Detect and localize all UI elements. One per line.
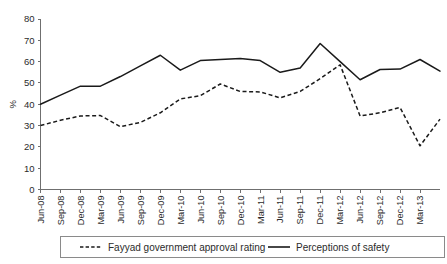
x-tick-label: Sep-09 [136, 196, 146, 226]
legend-label: Perceptions of safety [296, 242, 389, 253]
x-tick-label: Dec-09 [156, 196, 166, 226]
y-axis-title: % [7, 99, 18, 108]
y-axis: 01020304050607080 [24, 13, 41, 195]
x-tick-label: Jun-11 [276, 196, 286, 223]
x-tick-label: Jun-09 [116, 196, 126, 224]
y-tick-label: 40 [24, 99, 35, 110]
x-tick-label: Sep-12 [375, 196, 385, 226]
x-tick-label: Dec-08 [76, 196, 86, 226]
y-tick-label: 80 [24, 13, 35, 24]
y-tick-label: 50 [24, 77, 35, 88]
x-tick-label: Dec-10 [236, 196, 246, 226]
x-tick-label: Mar-13 [415, 196, 425, 225]
x-tick-label: Dec-11 [315, 196, 325, 225]
series-line-perceptions-safety [41, 44, 441, 105]
series-lines [41, 44, 441, 146]
y-tick-label: 60 [24, 56, 35, 67]
y-axis-title-text: % [7, 99, 18, 108]
y-tick-label: 30 [24, 120, 35, 131]
series-line-fayyad-approval [41, 65, 441, 146]
x-tick-label: Jun-08 [36, 196, 46, 224]
x-tick-label: Mar-11 [256, 196, 266, 224]
x-axis: Jun-08Sep-08Dec-08Mar-09Jun-09Sep-09Dec-… [36, 190, 440, 226]
x-tick-label: Mar-09 [96, 196, 106, 225]
y-tick-label: 20 [24, 141, 35, 152]
chart-canvas: 01020304050607080 Jun-08Sep-08Dec-08Mar-… [0, 0, 447, 264]
legend-label: Fayyad government approval rating [108, 242, 265, 253]
x-tick-label: Jun-12 [355, 196, 365, 224]
x-tick-label: Dec-12 [395, 196, 405, 226]
y-tick-label: 10 [24, 163, 35, 174]
line-chart: 01020304050607080 Jun-08Sep-08Dec-08Mar-… [0, 0, 447, 264]
x-tick-label: Mar-12 [335, 196, 345, 225]
x-tick-label: Jun-10 [196, 196, 206, 224]
y-tick-label: 0 [29, 184, 34, 195]
x-tick-label: Sep-11 [295, 196, 305, 225]
chart-legend: Fayyad government approval ratingPercept… [61, 237, 445, 258]
x-tick-label: Sep-08 [56, 196, 66, 226]
x-tick-label: Sep-10 [216, 196, 226, 226]
y-tick-label: 70 [24, 35, 35, 46]
x-tick-label: Mar-10 [176, 196, 186, 225]
